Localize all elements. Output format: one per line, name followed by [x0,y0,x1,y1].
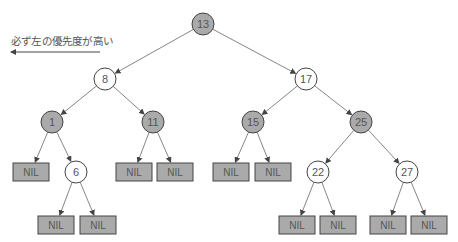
tree-edge [138,132,149,162]
tree-node-8: 8 [94,68,116,90]
svg-text:NIL: NIL [23,167,39,178]
tree-edge [113,86,144,114]
nil-leaf: NIL [279,216,315,234]
nil-leaf: NIL [320,216,356,234]
svg-text:NIL: NIL [289,220,305,231]
tree-edge [257,132,269,162]
tree-node-13: 13 [192,13,214,35]
tree-edge [213,29,296,73]
tree-edge [326,130,354,163]
tree-edge [411,182,425,215]
tree-edge [57,132,71,161]
tree-node-17: 17 [295,68,317,90]
nil-leaf: NIL [255,163,291,181]
svg-text:NIL: NIL [167,167,183,178]
tree-edge [35,132,48,162]
tree-edge [322,182,334,215]
svg-text:27: 27 [401,166,413,178]
svg-text:25: 25 [355,116,367,128]
tree-edge [368,130,398,163]
svg-text:13: 13 [197,18,209,30]
tree-node-25: 25 [350,111,372,133]
tree-edge [315,86,352,115]
tree-node-27: 27 [396,161,418,183]
tree-node-22: 22 [307,161,329,183]
nil-leaf: NIL [213,163,249,181]
nil-leaf: NIL [38,216,74,234]
nil-leaf: NIL [411,216,447,234]
tree-edge [235,132,248,162]
svg-text:NIL: NIL [126,167,142,178]
svg-text:NIL: NIL [330,220,346,231]
tree-edge [115,29,193,73]
svg-text:8: 8 [102,73,108,85]
tree-edge [60,182,72,215]
tree-edge [61,86,96,115]
tree-edge [392,182,404,215]
svg-text:22: 22 [312,166,324,178]
svg-text:NIL: NIL [380,220,396,231]
tree-node-15: 15 [242,111,264,133]
svg-text:NIL: NIL [223,167,239,178]
nil-leaf: NIL [370,216,406,234]
tree-edge [301,182,314,215]
nil-leaf: NIL [13,163,49,181]
svg-text:NIL: NIL [421,220,437,231]
svg-text:6: 6 [73,166,79,178]
svg-text:NIL: NIL [48,220,64,231]
nil-leaf: NIL [80,216,116,234]
tree-node-6: 6 [65,161,87,183]
tree-edge [262,86,297,115]
svg-text:15: 15 [247,116,259,128]
tree-edge [157,132,170,162]
svg-text:1: 1 [49,116,55,128]
tree-node-11: 11 [142,111,164,133]
svg-text:11: 11 [147,116,158,128]
nil-leaf: NIL [157,163,193,181]
tree-node-1: 1 [41,111,63,133]
tree-edge [80,182,94,215]
svg-text:17: 17 [300,73,312,85]
svg-text:NIL: NIL [90,220,106,231]
nil-leaf: NIL [116,163,152,181]
red-black-tree-diagram: 13817111152562227 NILNILNILNILNILNILNILN… [0,0,458,242]
svg-text:NIL: NIL [265,167,281,178]
